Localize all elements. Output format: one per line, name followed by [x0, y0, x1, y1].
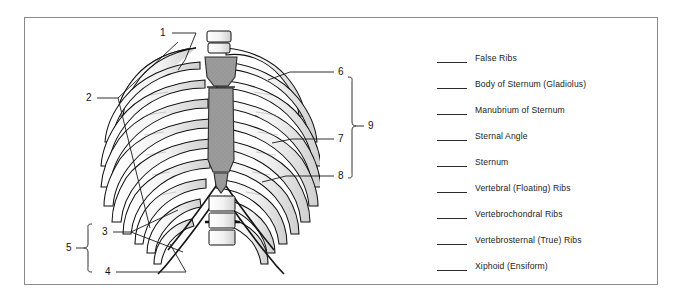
legend-row-xiphoid: Xiphoid (Ensiform) — [437, 258, 652, 284]
callout-number-6: 6 — [338, 66, 344, 77]
legend-row-vertebrochondral-ribs: Vertebrochondral Ribs — [437, 206, 652, 232]
legend-answer-blank[interactable] — [437, 88, 467, 89]
callout-number-7: 7 — [338, 133, 344, 144]
legend-row-vertebral-floating-ribs: Vertebral (Floating) Ribs — [437, 180, 652, 206]
legend-label: False Ribs — [475, 53, 517, 63]
legend-answer-blank[interactable] — [437, 218, 467, 219]
legend-list: False Ribs Body of Sternum (Gladiolus) M… — [437, 50, 652, 284]
callout-number-1: 1 — [160, 27, 166, 38]
callout-number-3: 3 — [102, 226, 108, 237]
sternum — [205, 57, 237, 193]
legend-answer-blank[interactable] — [437, 140, 467, 141]
legend-answer-blank[interactable] — [437, 166, 467, 167]
legend-row-sternal-angle: Sternal Angle — [437, 128, 652, 154]
legend-row-false-ribs: False Ribs — [437, 50, 652, 76]
legend-label: Vertebrosternal (True) Ribs — [475, 235, 582, 245]
legend-row-manubrium: Manubrium of Sternum — [437, 102, 652, 128]
legend-answer-blank[interactable] — [437, 192, 467, 193]
callout-number-2: 2 — [86, 92, 92, 103]
legend-label: Manubrium of Sternum — [475, 105, 565, 115]
callout-number-8: 8 — [338, 170, 344, 181]
legend-answer-blank[interactable] — [437, 62, 467, 63]
ribs-left — [101, 48, 211, 264]
legend-row-body-of-sternum: Body of Sternum (Gladiolus) — [437, 76, 652, 102]
callout-number-5: 5 — [66, 242, 72, 253]
legend-label: Vertebral (Floating) Ribs — [475, 183, 571, 193]
legend-answer-blank[interactable] — [437, 244, 467, 245]
callout-number-4: 4 — [105, 266, 111, 277]
lower-vertebrae — [205, 196, 240, 245]
legend-label: Sternal Angle — [475, 131, 528, 141]
callout-number-9: 9 — [368, 120, 374, 131]
legend-label: Xiphoid (Ensiform) — [475, 261, 548, 271]
legend-label: Body of Sternum (Gladiolus) — [475, 79, 586, 89]
legend-row-vertebrosternal-true-ribs: Vertebrosternal (True) Ribs — [437, 232, 652, 258]
upper-vertebrae — [207, 31, 231, 53]
legend-row-sternum: Sternum — [437, 154, 652, 180]
legend-label: Sternum — [475, 157, 508, 167]
legend-answer-blank[interactable] — [437, 270, 467, 271]
legend-answer-blank[interactable] — [437, 114, 467, 115]
legend-label: Vertebrochondral Ribs — [475, 209, 563, 219]
